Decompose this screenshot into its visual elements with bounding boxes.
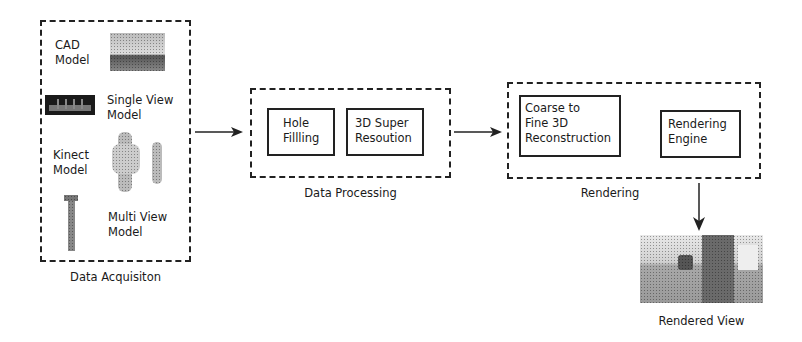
data-processing-title: Data Processing xyxy=(250,186,451,200)
hole-filling-block: Hole Fillling xyxy=(267,108,335,156)
arrow-right-icon xyxy=(195,126,245,138)
rendering-engine-block: Rendering Engine xyxy=(660,110,741,158)
rendered-view-title: Rendered View xyxy=(630,314,773,328)
3d-super-resolution-block: 3D Super Resoution xyxy=(346,108,424,156)
coarse-to-fine-reconstruction-block: Coarse to Fine 3D Reconstruction xyxy=(519,95,621,157)
rendering-title: Rendering xyxy=(560,186,660,200)
multi-view-model-image xyxy=(64,195,80,253)
single-view-model-label: Single View Model xyxy=(107,93,173,123)
data-acquisition-title: Data Acquisiton xyxy=(40,270,191,284)
single-view-model-image xyxy=(45,95,95,115)
cad-model-label: CAD Model xyxy=(55,38,90,68)
rendered-view-image xyxy=(640,235,763,303)
kinect-model-image xyxy=(112,132,172,197)
multi-view-model-label: Multi View Model xyxy=(108,210,167,240)
kinect-model-label: Kinect Model xyxy=(53,148,89,178)
cad-model-image xyxy=(110,33,165,71)
arrow-down-icon xyxy=(692,183,706,233)
arrow-right-icon xyxy=(454,126,504,138)
